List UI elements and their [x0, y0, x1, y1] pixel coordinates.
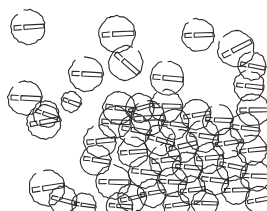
glyph-scatter-illustration — [0, 0, 267, 211]
sketch-canvas-stage: About fifty hand-drawn circles, each con… — [0, 0, 267, 211]
